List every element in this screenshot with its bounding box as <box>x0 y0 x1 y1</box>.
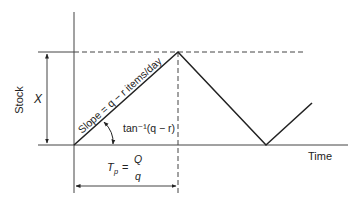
period-label-den: q <box>135 170 141 182</box>
inventory-diagram: Stock Time X Slope = q − r items/day tan… <box>0 0 357 207</box>
max-stock-label: X <box>33 92 43 106</box>
x-axis-label: Time <box>308 150 332 162</box>
period-formula: T p = Q q <box>107 153 142 182</box>
period-label-num: Q <box>134 153 142 165</box>
y-axis-label: Stock <box>13 86 25 114</box>
period-label-sub: p <box>113 167 118 176</box>
angle-arc <box>104 122 113 144</box>
angle-label: tan⁻¹(q − r) <box>123 122 175 134</box>
period-label-eq: = <box>122 161 128 173</box>
